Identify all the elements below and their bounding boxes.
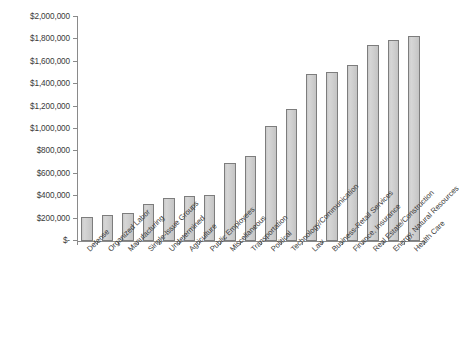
bar xyxy=(81,217,93,241)
y-tick-label: $800,000 xyxy=(37,145,70,156)
y-tick-label: $1,800,000 xyxy=(30,33,70,44)
y-tick-label: $400,000 xyxy=(37,190,70,201)
y-tick-label: $200,000 xyxy=(37,213,70,224)
y-tick-label: $1,600,000 xyxy=(30,56,70,67)
x-tick-mark xyxy=(77,241,78,245)
y-tick-label: $- xyxy=(63,235,70,246)
bar xyxy=(306,74,318,241)
y-tick-label: $1,000,000 xyxy=(30,123,70,134)
y-tick-label: $1,200,000 xyxy=(30,101,70,112)
y-tick-label: $1,400,000 xyxy=(30,78,70,89)
y-tick-label: $600,000 xyxy=(37,168,70,179)
bar xyxy=(347,65,359,241)
y-tick-label: $2,000,000 xyxy=(30,11,70,22)
